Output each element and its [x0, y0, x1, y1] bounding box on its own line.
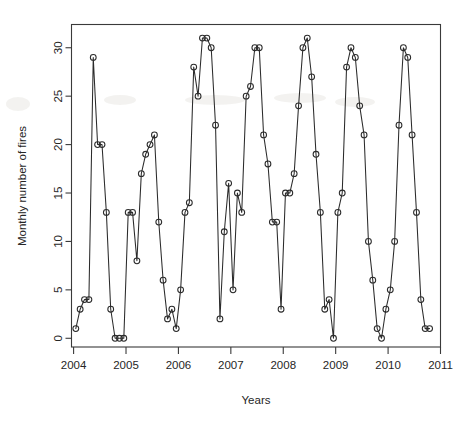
y-tick-label-15: 15 — [52, 187, 64, 200]
x-tick-label-2011: 2011 — [428, 359, 453, 371]
y-tick-label-25: 25 — [52, 90, 64, 103]
x-tick-label-2004: 2004 — [61, 359, 87, 371]
y-tick-label-20: 20 — [52, 138, 64, 151]
fires-time-series-chart: 051015202530 200420052006200720082009201… — [0, 0, 465, 422]
y-axis-title: Monthly number of fires — [16, 126, 28, 246]
y-tick-label-0: 0 — [52, 335, 64, 341]
x-tick-label-2007: 2007 — [218, 359, 244, 371]
y-tick-label-5: 5 — [52, 287, 64, 293]
x-tick-label-2006: 2006 — [166, 359, 192, 371]
x-tick-label-2010: 2010 — [375, 359, 401, 371]
y-tick-label-10: 10 — [52, 235, 64, 248]
x-axis-title: Years — [242, 394, 271, 406]
x-tick-label-2008: 2008 — [270, 359, 296, 371]
x-tick-label-2005: 2005 — [113, 359, 139, 371]
x-tick-label-2009: 2009 — [323, 359, 349, 371]
y-tick-label-30: 30 — [52, 41, 64, 54]
